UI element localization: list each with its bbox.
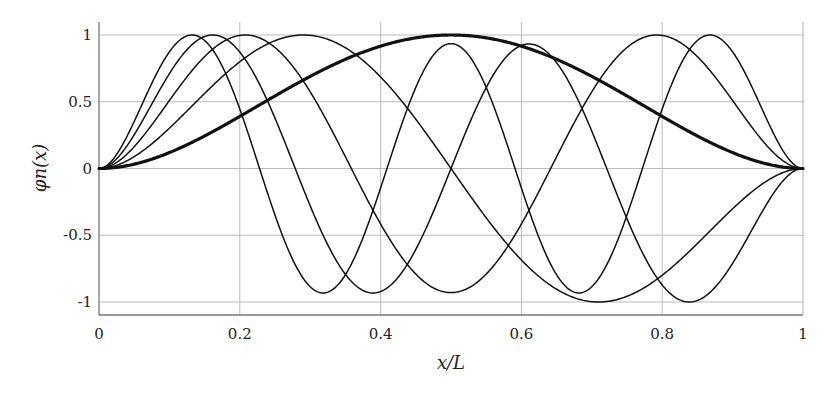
y-axis-label: φn(x) (29, 144, 50, 192)
x-tick-label: 0.6 (509, 325, 533, 343)
x-tick-label: 1 (798, 325, 808, 343)
x-tick-label: 0.8 (650, 325, 674, 343)
x-tick-label: 0.4 (369, 325, 393, 343)
y-tick-labels: 10.50-0.5-1 (63, 26, 92, 311)
mode-curve-n5 (99, 35, 803, 293)
mode-curve-n3 (99, 35, 803, 293)
y-tick-label: -1 (77, 293, 92, 311)
y-tick-label: 0.5 (68, 93, 92, 111)
x-tick-label: 0 (94, 325, 104, 343)
x-axis-label: x/L (437, 352, 465, 373)
chart: 00.20.40.60.81 10.50-0.5-1 x/L φn(x) (0, 0, 830, 399)
x-tick-label: 0.2 (228, 325, 252, 343)
x-tick-labels: 00.20.40.60.81 (94, 325, 808, 343)
y-tick-label: 1 (82, 26, 92, 44)
y-tick-label: -0.5 (63, 226, 92, 244)
y-tick-label: 0 (82, 160, 92, 178)
